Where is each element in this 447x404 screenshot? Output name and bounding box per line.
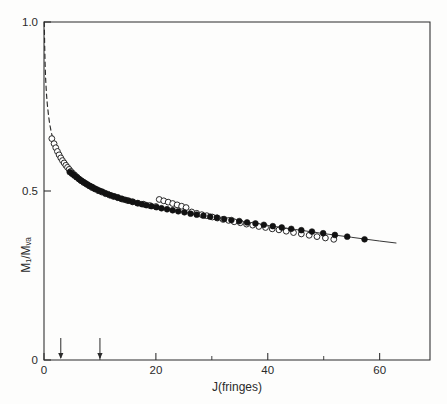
data-point-filled — [188, 211, 194, 217]
y-tick-label-1: 0.5 — [22, 185, 38, 197]
data-point-filled — [214, 215, 220, 221]
fit-curve-path — [78, 177, 397, 243]
x-axis-tick-labels: 0204060 — [41, 364, 386, 376]
arrow-markers — [58, 338, 102, 359]
data-point-filled — [175, 208, 181, 214]
data-point-filled — [229, 217, 235, 223]
x-tick-label-1: 20 — [149, 364, 162, 376]
data-point-filled — [279, 225, 285, 231]
data-point-filled — [298, 227, 304, 233]
data-point-filled — [207, 214, 213, 220]
data-point-filled — [362, 236, 368, 242]
y-axis-label: M₁/Mᵥₐ — [19, 237, 33, 273]
data-point-open — [314, 234, 320, 240]
data-point-filled — [159, 205, 165, 211]
data-point-filled — [244, 220, 250, 226]
x-tick-label-2: 40 — [261, 364, 274, 376]
arrow-head — [97, 353, 102, 359]
data-point-filled — [182, 209, 188, 215]
data-point-filled — [332, 232, 338, 238]
data-point-filled — [236, 218, 242, 224]
data-point-filled — [170, 207, 176, 213]
data-point-filled — [194, 212, 200, 218]
y-tick-label-2: 1.0 — [22, 16, 38, 28]
data-point-filled — [309, 229, 315, 235]
arrow-marker-1 — [58, 338, 63, 359]
x-axis-label: J(fringes) — [212, 380, 262, 394]
data-point-filled — [201, 213, 207, 219]
y-tick-label-0: 0 — [32, 354, 38, 366]
arrow-marker-2 — [97, 338, 102, 359]
data-point-filled — [320, 230, 326, 236]
x-tick-label-0: 0 — [41, 364, 47, 376]
x-axis-minor-ticks — [100, 356, 324, 360]
data-point-filled — [288, 226, 294, 232]
y-axis-tick-labels: 00.51.0 — [22, 16, 38, 366]
filled-circle-series — [67, 169, 368, 242]
figure-panel: 00.51.0 0204060 J(fringes) M₁/Mᵥₐ — [0, 0, 447, 404]
arrow-head — [58, 353, 63, 359]
data-point-filled — [344, 234, 350, 240]
x-tick-label-3: 60 — [373, 364, 386, 376]
plot-svg: 00.51.0 0204060 J(fringes) M₁/Mᵥₐ — [0, 0, 447, 404]
data-point-filled — [221, 216, 227, 222]
data-point-filled — [253, 221, 259, 227]
data-point-filled — [261, 222, 267, 228]
data-point-filled — [164, 206, 170, 212]
data-point-filled — [270, 223, 276, 229]
